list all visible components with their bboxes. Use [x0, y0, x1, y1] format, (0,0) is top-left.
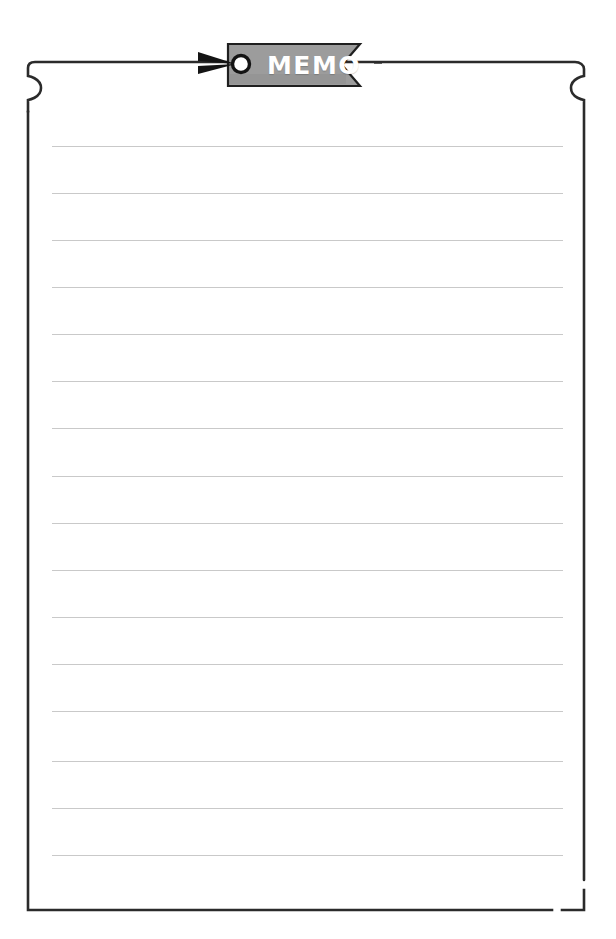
ruled-line[interactable] — [52, 193, 563, 194]
ruled-line[interactable] — [52, 617, 563, 618]
ruled-line[interactable] — [52, 334, 563, 335]
ruled-line[interactable] — [52, 240, 563, 241]
ruled-line[interactable] — [52, 570, 563, 571]
ruled-line[interactable] — [52, 761, 563, 762]
ruled-line[interactable] — [52, 808, 563, 809]
memo-tag-label: MEMO — [260, 44, 368, 86]
ruled-line[interactable] — [52, 381, 563, 382]
ring-eyelet-icon — [233, 56, 250, 73]
memo-page: MEMO — [0, 0, 616, 939]
ruled-line[interactable] — [52, 664, 563, 665]
ruled-line[interactable] — [52, 476, 563, 477]
ruled-line[interactable] — [52, 287, 563, 288]
ruled-lines-group — [0, 0, 616, 939]
ruled-line[interactable] — [52, 146, 563, 147]
ruled-line[interactable] — [52, 428, 563, 429]
ruled-line[interactable] — [52, 711, 563, 712]
ruled-line[interactable] — [52, 855, 563, 856]
ruled-line[interactable] — [52, 523, 563, 524]
memo-tag[interactable]: MEMO — [196, 40, 382, 90]
